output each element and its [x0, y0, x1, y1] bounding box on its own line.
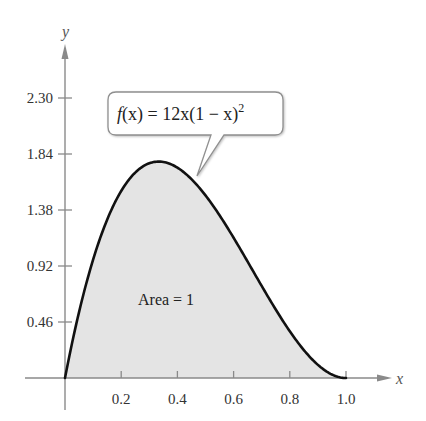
x-tick-label: 0.2	[112, 391, 131, 407]
y-tick-label: 1.38	[27, 202, 53, 218]
x-tick-label: 0.4	[168, 391, 187, 407]
y-axis-label: y	[60, 23, 70, 41]
x-tick-label: 0.6	[224, 391, 243, 407]
y-tick-label: 0.92	[27, 258, 53, 274]
y-tick-label: 2.30	[27, 90, 53, 106]
area-label: Area = 1	[138, 291, 194, 308]
y-tick-label: 1.84	[27, 146, 54, 162]
y-axis: 0.460.921.381.842.30	[27, 44, 72, 410]
function-callout: f(x) = 12x(1 − x)2	[108, 92, 283, 176]
y-tick-label: 0.46	[27, 314, 54, 330]
x-axis-arrow-icon	[377, 375, 392, 382]
y-axis-arrow-icon	[62, 44, 69, 59]
x-axis-label: x	[395, 370, 403, 387]
x-tick-label: 1.0	[337, 391, 356, 407]
chart-canvas: 0.20.40.60.81.0 0.460.921.381.842.30 y x…	[0, 0, 426, 421]
x-tick-label: 0.8	[280, 391, 299, 407]
callout-formula: f(x) = 12x(1 − x)2	[117, 101, 244, 125]
